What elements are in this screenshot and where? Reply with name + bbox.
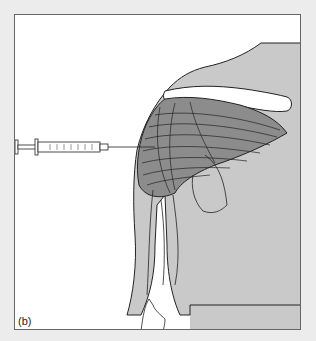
shoulder-injection-illustration (15, 15, 301, 330)
figure-panel: (b) (14, 14, 301, 330)
panel-label: (b) (18, 315, 31, 327)
syringe-icon (15, 139, 155, 155)
